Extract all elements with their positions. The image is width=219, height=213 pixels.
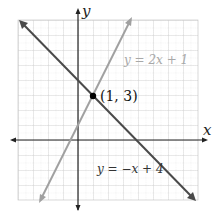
intersection-point [90, 93, 96, 99]
chart-canvas [0, 0, 219, 213]
x-axis-label: x [203, 121, 211, 139]
point-label: (1, 3) [100, 88, 138, 104]
line1-label: y = 2x + 1 [124, 53, 188, 67]
line2-label: y = −x + 4 [97, 162, 164, 176]
y-axis-label: y [82, 2, 90, 20]
